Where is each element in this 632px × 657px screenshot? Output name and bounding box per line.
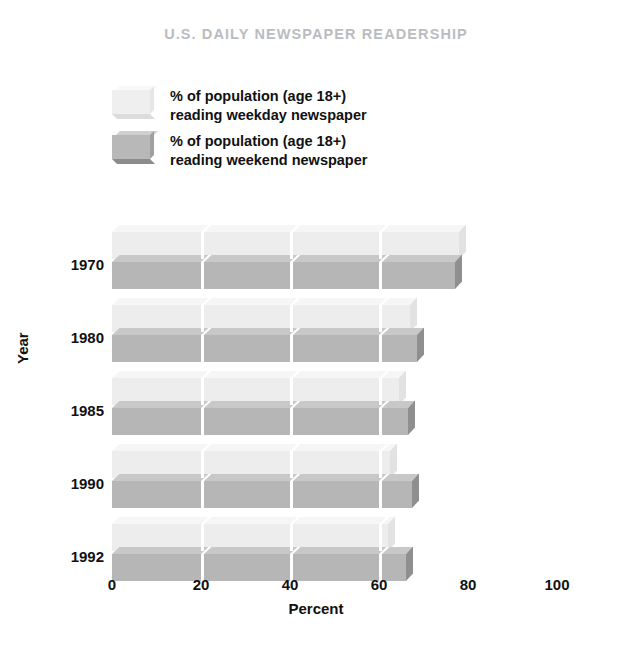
gridline-20 bbox=[201, 335, 204, 362]
chart-plot-area: Year 19701980198519901992 020406080100 P… bbox=[0, 0, 632, 657]
y-axis-label-1970: 1970 bbox=[44, 256, 104, 273]
bar-side-face bbox=[390, 443, 397, 478]
bar-side-face bbox=[412, 473, 419, 508]
gridline-40 bbox=[290, 262, 293, 289]
gridline-60 bbox=[379, 305, 382, 332]
bar-weekend-1980 bbox=[112, 335, 417, 362]
bar-side-face bbox=[388, 516, 395, 551]
bar-top-face bbox=[112, 547, 413, 554]
gridline-60 bbox=[379, 524, 382, 551]
x-axis-tick-80: 80 bbox=[444, 576, 492, 593]
bar-top-face bbox=[112, 517, 395, 524]
bar-weekend-1985 bbox=[112, 408, 408, 435]
y-axis-label-1980: 1980 bbox=[44, 329, 104, 346]
bar-side-face bbox=[399, 370, 406, 405]
bar-top-face bbox=[112, 474, 420, 481]
gridline-60 bbox=[379, 232, 382, 259]
gridline-40 bbox=[290, 524, 293, 551]
x-axis-tick-60: 60 bbox=[355, 576, 403, 593]
gridline-20 bbox=[201, 481, 204, 508]
bar-top-face bbox=[112, 401, 415, 408]
y-axis-label-1990: 1990 bbox=[44, 475, 104, 492]
gridline-40 bbox=[290, 408, 293, 435]
x-axis-tick-40: 40 bbox=[266, 576, 314, 593]
bar-top-face bbox=[112, 328, 424, 335]
gridline-20 bbox=[201, 451, 204, 478]
gridline-40 bbox=[290, 378, 293, 405]
gridline-40 bbox=[290, 305, 293, 332]
bar-front-face bbox=[112, 262, 455, 289]
gridline-20 bbox=[201, 232, 204, 259]
gridline-40 bbox=[290, 451, 293, 478]
gridline-20 bbox=[201, 378, 204, 405]
gridline-60 bbox=[379, 481, 382, 508]
bar-top-face bbox=[112, 371, 407, 378]
bar-side-face bbox=[410, 297, 417, 332]
gridline-20 bbox=[201, 262, 204, 289]
bar-side-face bbox=[455, 254, 462, 289]
gridline-60 bbox=[379, 262, 382, 289]
bar-top-face bbox=[112, 444, 398, 451]
bar-side-face bbox=[417, 327, 424, 362]
bar-top-face bbox=[112, 298, 418, 305]
x-axis-tick-100: 100 bbox=[533, 576, 581, 593]
gridline-60 bbox=[379, 451, 382, 478]
bar-front-face bbox=[112, 481, 412, 508]
gridline-20 bbox=[201, 524, 204, 551]
bar-side-face bbox=[459, 224, 466, 259]
gridline-20 bbox=[201, 408, 204, 435]
bar-top-face bbox=[112, 255, 462, 262]
bar-side-face bbox=[408, 400, 415, 435]
gridline-60 bbox=[379, 378, 382, 405]
x-axis-tick-20: 20 bbox=[177, 576, 225, 593]
gridline-60 bbox=[379, 408, 382, 435]
gridline-40 bbox=[290, 481, 293, 508]
y-axis-label-1992: 1992 bbox=[44, 548, 104, 565]
bar-weekend-1990 bbox=[112, 481, 412, 508]
bar-front-face bbox=[112, 335, 417, 362]
gridline-40 bbox=[290, 232, 293, 259]
y-axis-title: Year bbox=[14, 332, 31, 364]
bar-weekend-1970 bbox=[112, 262, 455, 289]
x-axis-title: Percent bbox=[0, 600, 632, 617]
gridline-60 bbox=[379, 335, 382, 362]
bar-side-face bbox=[406, 546, 413, 581]
y-axis-label-1985: 1985 bbox=[44, 402, 104, 419]
gridline-20 bbox=[201, 305, 204, 332]
x-axis-tick-0: 0 bbox=[88, 576, 136, 593]
bar-front-face bbox=[112, 408, 408, 435]
gridline-40 bbox=[290, 335, 293, 362]
